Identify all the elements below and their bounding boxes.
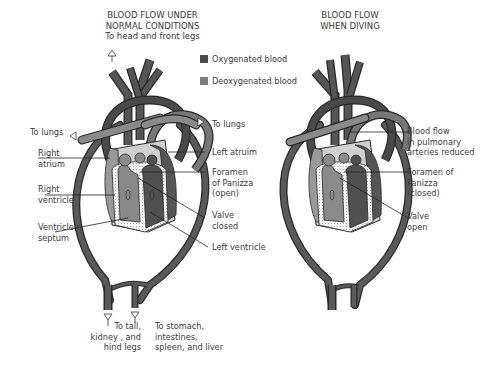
label-to-tail: To tail, kidney , and hind legs [60, 321, 141, 353]
legend-oxygenated-label: Oxygenated blood [212, 54, 287, 64]
label-to-lungs-right: To lungs [212, 119, 245, 130]
legend-oxygenated: Oxygenated blood [200, 54, 287, 64]
label-to-stomach: To stomach, intestines, spleen, and live… [155, 321, 223, 353]
legend-deoxygenated-label: Deoxygenated blood [212, 76, 297, 86]
label-left-atrium: Left atruim [212, 147, 257, 158]
left-title-line1: BLOOD FLOW UNDER [90, 10, 215, 21]
legend-deoxygenated: Deoxygenated blood [200, 76, 297, 86]
right-title-line1: BLOOD FLOW [300, 10, 400, 21]
label-pulmonary-reduced: Blood flow in pulmonary arteries reduced [407, 126, 475, 158]
label-foramen-open: Foramen of Panizza (open) [212, 167, 253, 199]
label-left-ventricle: Left ventricle [212, 242, 266, 253]
label-foramen-closed: Foramen of Panizza (closed) [407, 167, 454, 199]
right-title-line2: WHEN DIVING [300, 21, 400, 32]
label-to-lungs-left: To lungs [30, 127, 63, 138]
label-to-head: To head and front legs [90, 31, 215, 42]
label-valve-closed: Valve closed [212, 210, 238, 231]
deoxygenated-swatch [200, 77, 208, 85]
label-right-atrium: Right atrium [38, 148, 65, 169]
left-panel-title: BLOOD FLOW UNDER NORMAL CONDITIONS To he… [90, 10, 215, 42]
label-valve-open: Valve open [407, 211, 429, 232]
label-ventricle-septum: Ventricle septum [38, 222, 74, 243]
oxygenated-swatch [200, 55, 208, 63]
right-panel-title: BLOOD FLOW WHEN DIVING [300, 10, 400, 31]
right-heart-diagram [283, 55, 410, 310]
left-title-line2: NORMAL CONDITIONS [90, 21, 215, 32]
label-right-ventricle: Right ventricle [38, 184, 74, 205]
